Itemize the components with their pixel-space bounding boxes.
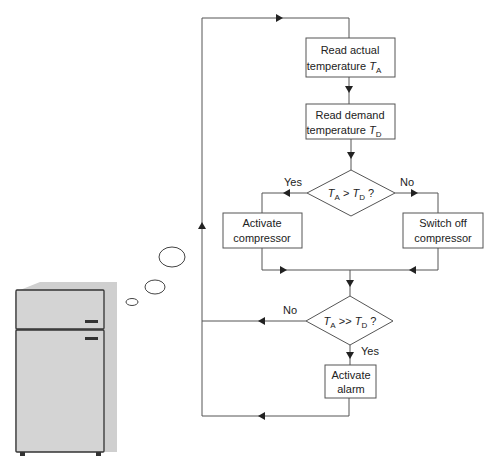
arrow-merge-right — [280, 266, 287, 274]
freezer-door — [16, 290, 104, 329]
fridge-foot-right — [96, 452, 101, 456]
read-demand-line1: Read demand — [315, 109, 384, 121]
arrow-down-4 — [346, 352, 354, 359]
freezer-handle — [85, 320, 98, 323]
thought-bubble-large — [159, 247, 185, 267]
fridge-foot-left — [20, 452, 25, 456]
arrow-merge-left — [409, 266, 416, 274]
decision2-no-label: No — [283, 304, 297, 316]
arrow-up-left — [198, 222, 206, 229]
thought-bubble-medium — [145, 280, 165, 294]
decision2-yes-label: Yes — [361, 345, 379, 357]
arrow-left-bottom — [258, 412, 265, 420]
edge-yes-to-activate-compressor — [262, 193, 307, 213]
arrow-left-no2 — [258, 317, 265, 325]
switch-off-line1: Switch off — [419, 217, 467, 229]
merge-line — [262, 248, 438, 270]
arrow-right-top — [276, 14, 283, 22]
activate-alarm-line1: Activate — [331, 369, 370, 381]
arrow-right-no — [411, 189, 418, 197]
refrigerator-illustration — [15, 247, 185, 456]
thought-bubble-small — [126, 299, 138, 306]
decision1-no-label: No — [400, 176, 414, 188]
arrow-left-yes — [283, 189, 290, 197]
activate-compressor-line2: compressor — [233, 232, 291, 244]
arrow-down-2 — [347, 152, 355, 159]
flowchart-diagram: Read actual temperature TA Read demand t… — [0, 0, 487, 471]
activate-compressor-line1: Activate — [242, 217, 281, 229]
switch-off-line2: compressor — [414, 232, 472, 244]
arrow-down-3 — [346, 280, 354, 287]
read-actual-line1: Read actual — [321, 44, 380, 56]
decision1-yes-label: Yes — [284, 176, 302, 188]
edge-no-to-switch-off — [395, 193, 438, 213]
fridge-handle — [85, 337, 98, 340]
arrow-down-1 — [345, 86, 353, 93]
activate-alarm-line2: alarm — [337, 383, 365, 395]
fridge-door — [16, 330, 104, 452]
